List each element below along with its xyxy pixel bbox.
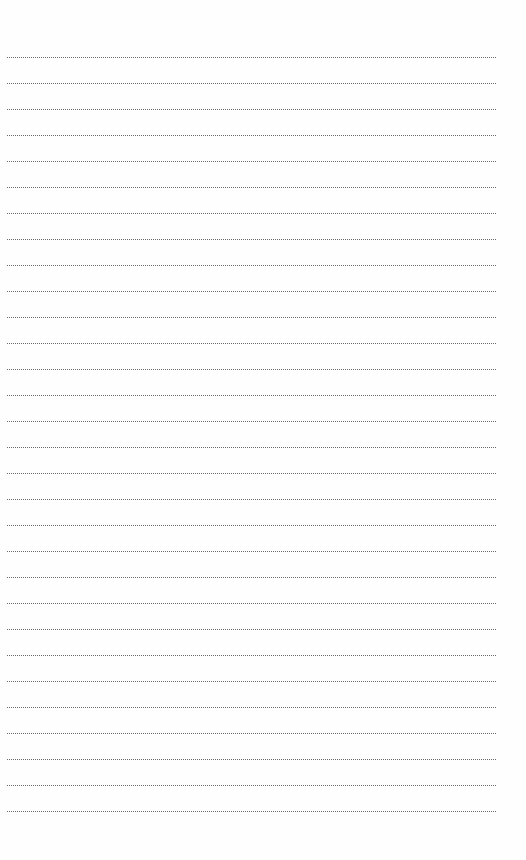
ruled-line: [7, 655, 496, 656]
ruled-line: [7, 57, 496, 58]
ruled-line: [7, 603, 496, 604]
ruled-line: [7, 681, 496, 682]
ruled-line: [7, 707, 496, 708]
notebook-page: [0, 0, 526, 860]
ruled-line: [7, 213, 496, 214]
ruled-line: [7, 447, 496, 448]
ruled-line: [7, 525, 496, 526]
ruled-line: [7, 135, 496, 136]
ruled-line: [7, 395, 496, 396]
ruled-line: [7, 629, 496, 630]
ruled-line: [7, 785, 496, 786]
ruled-line: [7, 83, 496, 84]
ruled-line: [7, 291, 496, 292]
ruled-line: [7, 369, 496, 370]
ruled-line: [7, 265, 496, 266]
ruled-line: [7, 421, 496, 422]
ruled-line: [7, 343, 496, 344]
ruled-line: [7, 759, 496, 760]
ruled-line: [7, 499, 496, 500]
ruled-line: [7, 161, 496, 162]
ruled-line: [7, 733, 496, 734]
ruled-line: [7, 187, 496, 188]
ruled-line: [7, 239, 496, 240]
ruled-line: [7, 551, 496, 552]
ruled-line: [7, 577, 496, 578]
ruled-line: [7, 109, 496, 110]
ruled-line: [7, 317, 496, 318]
ruled-line: [7, 473, 496, 474]
ruled-line: [7, 811, 496, 812]
